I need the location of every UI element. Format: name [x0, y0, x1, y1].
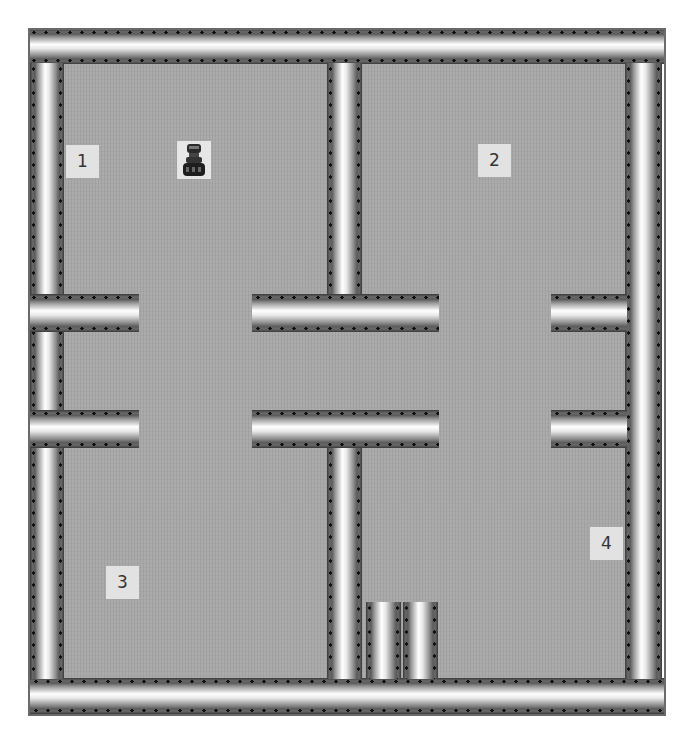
room-label-1: 1	[66, 145, 99, 178]
room-label-3: 3	[106, 566, 139, 599]
robot-icon	[177, 141, 211, 179]
room-label-2: 2	[478, 144, 511, 177]
room-label-4: 4	[590, 527, 623, 560]
grid-world-map: 1 2 3 4	[0, 0, 691, 742]
map-border	[28, 28, 666, 716]
